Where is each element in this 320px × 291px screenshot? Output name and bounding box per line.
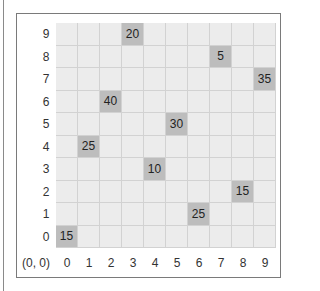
board-cell[interactable] <box>78 68 100 91</box>
board-cell[interactable] <box>122 68 144 91</box>
board-cell[interactable] <box>210 226 232 249</box>
board-cell[interactable] <box>56 203 78 226</box>
board-cell[interactable] <box>232 68 254 91</box>
board-cell[interactable] <box>122 158 144 181</box>
board-cell[interactable] <box>188 136 210 159</box>
board-cell[interactable] <box>232 203 254 226</box>
board-cell[interactable] <box>144 113 166 136</box>
board-cell[interactable] <box>100 203 122 226</box>
board-cell[interactable] <box>188 226 210 249</box>
board-cell-filled[interactable]: 10 <box>144 158 166 181</box>
board-cell[interactable] <box>122 203 144 226</box>
board-cell[interactable] <box>188 181 210 204</box>
board-cell[interactable] <box>188 113 210 136</box>
board-cell[interactable] <box>254 91 276 114</box>
board-cell-filled[interactable]: 35 <box>254 68 276 91</box>
board-cell[interactable] <box>166 46 188 69</box>
board-cell[interactable] <box>188 158 210 181</box>
board-cell[interactable] <box>56 113 78 136</box>
board-cell[interactable] <box>100 46 122 69</box>
board-cell[interactable] <box>56 46 78 69</box>
board-cell-filled[interactable]: 40 <box>100 91 122 114</box>
board-cell[interactable] <box>78 181 100 204</box>
board-cell[interactable] <box>78 91 100 114</box>
board-cell[interactable] <box>100 113 122 136</box>
board-cell[interactable] <box>254 203 276 226</box>
board-cell[interactable] <box>56 158 78 181</box>
board-cell[interactable] <box>166 158 188 181</box>
board-cell[interactable] <box>210 181 232 204</box>
board-cell[interactable] <box>122 181 144 204</box>
board-cell[interactable] <box>144 46 166 69</box>
board-cell[interactable] <box>56 181 78 204</box>
board-cell[interactable] <box>122 91 144 114</box>
board-cell[interactable] <box>100 158 122 181</box>
board-cell[interactable] <box>166 136 188 159</box>
board-cell[interactable] <box>144 136 166 159</box>
board-cell[interactable] <box>166 23 188 46</box>
board-cell[interactable] <box>166 226 188 249</box>
board-cell[interactable] <box>100 181 122 204</box>
board-cell[interactable] <box>232 158 254 181</box>
board-cell[interactable] <box>144 203 166 226</box>
board-cell[interactable] <box>166 203 188 226</box>
board-cell[interactable] <box>188 91 210 114</box>
board-cell[interactable] <box>210 203 232 226</box>
board-cell[interactable] <box>188 68 210 91</box>
board-cell[interactable] <box>56 91 78 114</box>
board-cell[interactable] <box>210 68 232 91</box>
board-cell[interactable] <box>254 46 276 69</box>
board-cell[interactable] <box>210 136 232 159</box>
board-cell[interactable] <box>232 46 254 69</box>
board-cell[interactable] <box>144 23 166 46</box>
board-cell[interactable] <box>254 23 276 46</box>
board-cell[interactable] <box>188 23 210 46</box>
board-cell[interactable] <box>254 113 276 136</box>
board-cell[interactable] <box>232 91 254 114</box>
board-cell[interactable] <box>210 158 232 181</box>
board-cell[interactable] <box>56 68 78 91</box>
board-cell[interactable] <box>56 136 78 159</box>
board-cell[interactable] <box>78 113 100 136</box>
board-cell[interactable] <box>122 113 144 136</box>
board-cell[interactable] <box>100 68 122 91</box>
board-cell-filled[interactable]: 15 <box>56 226 78 249</box>
board-cell[interactable] <box>78 46 100 69</box>
board-cell-filled[interactable]: 20 <box>122 23 144 46</box>
board-cell[interactable] <box>232 23 254 46</box>
board-cell[interactable] <box>232 136 254 159</box>
board-cell[interactable] <box>100 226 122 249</box>
board-cell[interactable] <box>232 226 254 249</box>
board-cell[interactable] <box>122 46 144 69</box>
board-cell[interactable] <box>166 68 188 91</box>
board-cell[interactable] <box>166 91 188 114</box>
board-cell[interactable] <box>254 181 276 204</box>
board-cell[interactable] <box>144 91 166 114</box>
board-cell[interactable] <box>254 136 276 159</box>
board-cell[interactable] <box>254 158 276 181</box>
board-cell[interactable] <box>56 23 78 46</box>
board-cell[interactable] <box>122 136 144 159</box>
board-cell[interactable] <box>188 46 210 69</box>
board-cell[interactable] <box>78 23 100 46</box>
board-cell-filled[interactable]: 25 <box>78 136 100 159</box>
board-cell[interactable] <box>144 181 166 204</box>
board-cell[interactable] <box>210 23 232 46</box>
board-cell[interactable] <box>122 226 144 249</box>
board-cell-filled[interactable]: 30 <box>166 113 188 136</box>
board-cell-filled[interactable]: 5 <box>210 46 232 69</box>
board-cell[interactable] <box>254 226 276 249</box>
board-cell[interactable] <box>166 181 188 204</box>
board-cell[interactable] <box>210 113 232 136</box>
board-cell-filled[interactable]: 25 <box>188 203 210 226</box>
board-cell-filled[interactable]: 15 <box>232 181 254 204</box>
board-cell[interactable] <box>100 23 122 46</box>
board-cell[interactable] <box>232 113 254 136</box>
board-cell[interactable] <box>210 91 232 114</box>
board-cell[interactable] <box>100 136 122 159</box>
board-cell[interactable] <box>144 68 166 91</box>
board-cell[interactable] <box>144 226 166 249</box>
board-cell[interactable] <box>78 158 100 181</box>
board-cell[interactable] <box>78 226 100 249</box>
board-cell[interactable] <box>78 203 100 226</box>
